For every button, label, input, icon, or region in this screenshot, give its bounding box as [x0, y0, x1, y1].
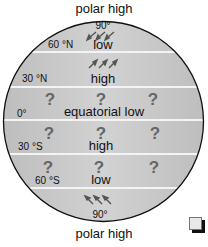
lat-60n-label: 60 °N	[48, 39, 73, 50]
title-bottom-polar-high: polar high	[0, 226, 208, 241]
pressure-high-north: high	[91, 71, 116, 86]
divider-30n	[0, 86, 208, 88]
svg-text:?: ?	[149, 158, 159, 177]
svg-text:?: ?	[148, 90, 158, 109]
pressure-high-south: high	[89, 138, 114, 153]
svg-text:?: ?	[150, 124, 160, 143]
lat-90s-label: 90°	[92, 209, 107, 220]
lat-30s-label: 30 °S	[18, 141, 43, 152]
divider-eq	[0, 119, 208, 121]
lat-30n-label: 30 °N	[22, 73, 47, 84]
svg-text:?: ?	[44, 124, 54, 143]
svg-text:?: ?	[45, 90, 55, 109]
lat-0-label: 0°	[17, 108, 27, 119]
divider-30s	[0, 153, 208, 155]
copy-icon[interactable]	[189, 217, 202, 230]
pressure-low-south: low	[91, 172, 111, 187]
pressure-equatorial-low: equatorial low	[64, 104, 145, 119]
lat-60s-label: 60 °S	[35, 175, 60, 186]
lat-90n-label: 90°	[95, 20, 110, 31]
globe-diagram: 90° 60 °N low 30 °N high ??? 0° equatori…	[0, 0, 208, 247]
pressure-low-north: low	[93, 37, 113, 52]
